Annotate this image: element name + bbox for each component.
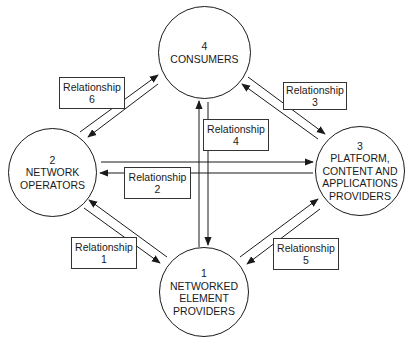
relationship-6-box: Relationship 6	[59, 77, 125, 109]
node-number: 1	[201, 267, 207, 280]
node-label: PLATFORM,	[330, 152, 389, 165]
node-label: CONTENT AND	[322, 165, 397, 178]
relationship-label: Relationship	[129, 171, 187, 184]
relationship-2-box: Relationship 2	[124, 167, 191, 199]
relationship-label: Relationship	[75, 241, 133, 254]
relationship-5-box: Relationship 5	[273, 238, 339, 270]
relationship-label: Relationship	[63, 81, 121, 94]
node-label: NETWORKED	[170, 280, 238, 293]
node-platform-content-applications-providers: 3 PLATFORM, CONTENT AND APPLICATIONS PRO…	[315, 126, 405, 216]
relationship-number: 4	[233, 135, 239, 148]
relationship-number: 3	[312, 96, 318, 109]
relationship-diagram: 4 CONSUMERS 2 NETWORK OPERATORS 3 PLATFO…	[0, 0, 405, 338]
node-number: 4	[202, 40, 208, 53]
relationship-4-box: Relationship 4	[203, 119, 269, 151]
node-label: PROVIDERS	[173, 305, 235, 318]
node-number: 2	[50, 154, 56, 167]
node-label: PROVIDERS	[329, 190, 391, 203]
node-label: OPERATORS	[20, 179, 85, 192]
node-consumers: 4 CONSUMERS	[158, 6, 251, 99]
relationship-number: 6	[89, 93, 95, 106]
node-label: CONSUMERS	[170, 53, 238, 66]
relationship-3-box: Relationship 3	[283, 82, 347, 110]
relationship-number: 1	[101, 253, 107, 266]
node-network-operators: 2 NETWORK OPERATORS	[8, 128, 97, 217]
node-number: 3	[357, 140, 363, 153]
node-label: NETWORK	[26, 166, 80, 179]
node-label: ELEMENT	[179, 292, 229, 305]
node-label: APPLICATIONS	[322, 177, 398, 190]
relationship-label: Relationship	[207, 123, 265, 136]
relationship-number: 5	[303, 254, 309, 267]
relationship-label: Relationship	[286, 84, 344, 97]
relationship-label: Relationship	[277, 242, 335, 255]
relationship-number: 2	[155, 183, 161, 196]
relationship-1-box: Relationship 1	[71, 237, 137, 269]
node-networked-element-providers: 1 NETWORKED ELEMENT PROVIDERS	[159, 247, 249, 337]
